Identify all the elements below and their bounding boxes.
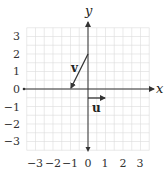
x-tick-label: −2 — [45, 157, 61, 170]
x-tick-label: 1 — [102, 157, 109, 170]
y-tick-label: −1 — [4, 101, 20, 114]
x-tick-label: −3 — [27, 157, 43, 170]
y-tick-label: −2 — [4, 118, 20, 131]
vector-v-label: v — [70, 61, 79, 75]
x-tick-label: 3 — [137, 157, 144, 170]
y-tick-label: 0 — [13, 83, 20, 96]
y-tick-label: 2 — [13, 48, 20, 61]
y-axis-bottom-arrow-icon — [86, 147, 91, 152]
x-tick-labels: −3 −2 −1 0 1 2 3 — [27, 157, 144, 170]
y-tick-label: −3 — [4, 135, 20, 148]
y-axis-label: y — [84, 3, 93, 18]
coordinate-plane: x y −3 −2 −1 0 1 2 3 3 2 1 0 −1 −2 −3 v … — [0, 0, 167, 176]
y-tick-label: 1 — [13, 65, 20, 78]
vector-u-label: u — [92, 101, 101, 115]
y-tick-labels: 3 2 1 0 −1 −2 −3 — [4, 30, 20, 148]
x-axis-left-end-icon — [23, 88, 26, 91]
y-tick-label: 3 — [13, 30, 20, 43]
x-tick-label: −1 — [62, 157, 78, 170]
x-tick-label: 2 — [120, 157, 127, 170]
x-tick-label: 0 — [85, 157, 92, 170]
x-axis-label: x — [156, 81, 164, 96]
